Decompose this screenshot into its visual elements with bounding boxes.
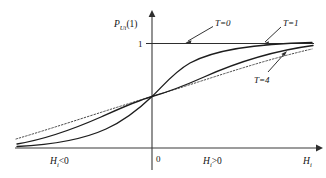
x-left-region-relation: <0 <box>59 156 69 166</box>
series-line-t4 <box>17 46 313 145</box>
leader-line-t0 <box>188 27 213 42</box>
x-right-region-label: Hi>0 <box>202 156 222 168</box>
annotation-t0: T=0 <box>215 18 231 28</box>
origin-label: 0 <box>156 154 161 164</box>
annotation-t1: T=1 <box>283 18 299 28</box>
y-axis-label-arg: (1) <box>126 19 137 30</box>
x-axis-arrowhead <box>316 145 323 152</box>
figure-container: PUi(1) 1 0 Hi<0 Hi>0 Hi T=0 T=1 T=4 <box>0 0 326 178</box>
plot-svg: PUi(1) 1 0 Hi<0 Hi>0 Hi T=0 T=1 T=4 <box>0 0 326 178</box>
leader-line-t4 <box>268 53 285 72</box>
x-left-region-label: Hi<0 <box>49 156 69 168</box>
y-axis-label: PUi(1) <box>113 19 138 31</box>
series-line-dotted-reference <box>16 49 312 139</box>
series-line-t1 <box>17 43 312 147</box>
x-axis-label-subscript: i <box>310 161 312 168</box>
x-axis-label: Hi <box>302 156 312 168</box>
annotation-t4: T=4 <box>254 75 270 85</box>
leader-line-t1 <box>265 27 281 42</box>
y-axis-arrowhead <box>149 10 156 17</box>
x-right-region-relation: >0 <box>212 156 222 166</box>
y-tick-label-1: 1 <box>138 39 143 49</box>
